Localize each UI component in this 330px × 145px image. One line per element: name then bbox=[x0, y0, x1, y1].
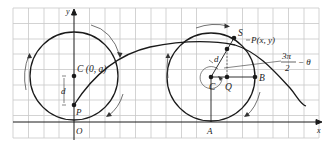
Q-point bbox=[225, 75, 230, 80]
right-C-label: C bbox=[209, 82, 216, 92]
angle-numerator: 3π bbox=[281, 51, 292, 61]
grid bbox=[13, 8, 319, 138]
origin-label: O bbox=[76, 126, 83, 136]
right-center-point bbox=[209, 75, 214, 80]
y-axis-label: y bbox=[65, 7, 70, 16]
trochoid-curve bbox=[74, 42, 306, 106]
arrow-icon bbox=[106, 112, 112, 117]
B-point bbox=[253, 75, 258, 80]
x-axis-label: x bbox=[316, 126, 321, 135]
right-d-label: d bbox=[214, 54, 219, 64]
y-axis-arrow-icon bbox=[72, 9, 77, 15]
left-center-label: C (0, a) bbox=[77, 64, 106, 75]
x-axis-arrow-icon bbox=[316, 120, 322, 125]
S-label: S bbox=[238, 28, 243, 38]
A-label: A bbox=[206, 126, 213, 136]
angle-theta: − θ bbox=[298, 57, 311, 67]
Q-label: Q bbox=[225, 82, 232, 92]
arrow-icon bbox=[117, 52, 123, 58]
left-P-label: P bbox=[75, 107, 82, 117]
S-point bbox=[232, 36, 237, 41]
trochoid-diagram: x y C (0, a) d P O S P(x, y) d C Q bbox=[0, 0, 330, 145]
right-P-point bbox=[225, 47, 230, 52]
right-P-label: P(x, y) bbox=[250, 35, 275, 45]
B-label: B bbox=[259, 73, 265, 83]
angle-denominator: 2 bbox=[285, 63, 290, 73]
left-d-label: d bbox=[61, 86, 66, 96]
left-center-point bbox=[72, 74, 77, 79]
right-d-dimension bbox=[209, 60, 213, 63]
